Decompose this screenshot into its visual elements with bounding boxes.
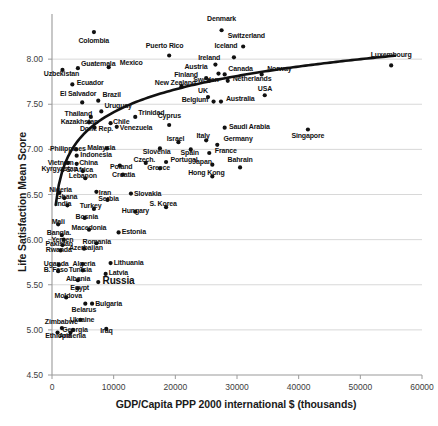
data-point-label: Malaysia — [87, 144, 115, 151]
plot-canvas — [0, 0, 438, 426]
data-point-label: Zimbabwe — [45, 318, 78, 325]
y-tick-label: 4.50 — [9, 370, 43, 380]
data-point-label: Guatemala — [81, 60, 115, 67]
data-points — [55, 28, 393, 335]
data-point-label: Hong Kong — [188, 169, 224, 176]
data-point-label: Ecuador — [77, 79, 104, 86]
x-tick-label: 50000 — [330, 382, 390, 392]
data-point-label: Azerbaijan — [69, 244, 103, 251]
data-point-label: Austria — [184, 63, 207, 70]
data-point-label: Japan — [192, 158, 211, 165]
data-point — [92, 30, 96, 34]
data-point — [389, 63, 393, 67]
data-point-label: Colombia — [78, 37, 109, 44]
data-point-label: Czech. — [134, 156, 156, 163]
data-point-label: Nigeria — [49, 186, 72, 193]
x-tick-label: 60000 — [392, 382, 438, 392]
data-point — [223, 72, 227, 76]
x-tick-label: 40000 — [269, 382, 329, 392]
data-point — [226, 79, 230, 83]
data-point — [115, 125, 119, 129]
data-point-label: S. Korea — [150, 200, 177, 207]
data-point-label: Poland — [110, 163, 132, 170]
data-point — [223, 126, 227, 130]
x-tick-label: 30000 — [207, 382, 267, 392]
x-tick-marks — [52, 375, 422, 379]
data-point-label: Belgium — [182, 96, 209, 103]
data-point-label: Slovenia — [143, 148, 171, 155]
data-point-label: Greece — [147, 164, 170, 171]
data-point-label: France — [215, 147, 237, 154]
data-point — [238, 165, 242, 169]
data-point — [96, 280, 100, 284]
data-point-label: Italy — [197, 132, 210, 139]
data-point-label: Israel — [167, 135, 184, 142]
data-point — [108, 261, 112, 265]
data-point-label: Denmark — [207, 15, 236, 22]
data-point — [213, 62, 217, 66]
data-point-label: Sweden — [193, 76, 219, 83]
data-point — [263, 93, 267, 97]
data-point-label: USA — [258, 85, 272, 92]
data-point-label: Ireland — [198, 54, 220, 61]
data-point-label: Australia — [226, 95, 255, 102]
data-point-label: Estonia — [122, 228, 146, 235]
data-point — [129, 192, 133, 196]
data-point-label: Bulgaria — [95, 300, 122, 307]
data-point-label: Switzerland — [228, 32, 265, 39]
data-point-label: Armenia — [59, 332, 86, 339]
data-point-label: Mexico — [120, 59, 143, 66]
data-point-label: Albania — [66, 275, 90, 282]
data-point-label: Croatia — [112, 171, 135, 178]
data-point-label: Luxembourg — [371, 51, 412, 58]
data-point-label: Hungary — [122, 207, 149, 214]
data-point — [80, 100, 84, 104]
data-point-label: Germany — [223, 135, 252, 142]
data-point-label: Iraq — [100, 327, 112, 334]
data-point — [207, 151, 211, 155]
data-point-label: Spain — [181, 149, 199, 156]
data-point-label: Iceland — [214, 42, 237, 49]
y-axis-title: Life Satisfaction Mean Score — [16, 92, 28, 312]
data-point-label: Norway — [267, 65, 291, 72]
data-point-label: Bahrain — [228, 156, 253, 163]
data-point — [167, 53, 171, 57]
data-point-label: Indonesia — [80, 151, 111, 158]
data-point — [219, 28, 223, 32]
data-point-label: UK — [198, 87, 208, 94]
data-point-label: Egypt — [70, 284, 89, 291]
data-point-label: Uruguay — [104, 102, 131, 109]
data-point — [70, 82, 74, 86]
x-axis-title: GDP/Capita PPP 2000 international $ (tho… — [52, 398, 420, 410]
data-point — [167, 123, 171, 127]
data-point-label: China — [79, 159, 98, 166]
data-point-label: Mali — [52, 218, 65, 225]
y-tick-label: 8.00 — [9, 54, 43, 64]
data-point — [75, 154, 79, 158]
data-point-label: Cyprus — [158, 112, 181, 119]
data-point — [241, 44, 245, 48]
data-point-label: Canada — [228, 65, 252, 72]
data-point — [94, 190, 98, 194]
data-point-label: Slovakia — [134, 190, 161, 197]
x-tick-label: 0 — [22, 382, 82, 392]
data-point-label: Belarus — [72, 306, 97, 313]
data-point — [117, 230, 121, 234]
data-point — [219, 99, 223, 103]
data-point-label: Bosnia — [76, 213, 98, 220]
data-point-label: Singapore — [291, 132, 324, 139]
data-point-label: Serbia — [98, 195, 119, 202]
data-point-label: El Salvador — [60, 90, 96, 97]
data-point — [211, 99, 215, 103]
data-point-label: B. Faso — [44, 266, 68, 273]
data-point — [96, 99, 100, 103]
data-point — [99, 109, 103, 113]
data-point-label: Moldova — [55, 292, 82, 299]
data-point-label: Dom. Rep. — [80, 125, 113, 132]
data-point-label: Turkey — [80, 202, 102, 209]
data-point-label: India — [56, 200, 72, 207]
data-point-label: Venezuela — [120, 124, 153, 131]
data-point-label: Brazil — [103, 91, 121, 98]
data-point-label: Macedonia — [72, 224, 107, 231]
data-point-label: Russia — [103, 276, 135, 286]
